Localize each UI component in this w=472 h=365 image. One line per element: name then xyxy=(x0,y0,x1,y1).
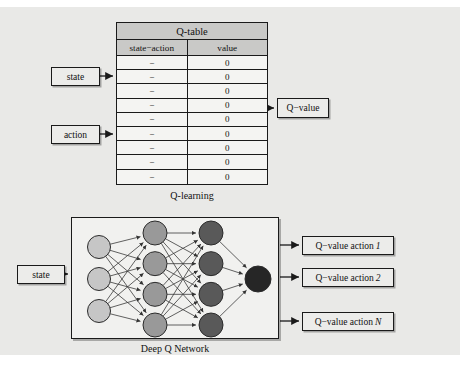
q-table-col-header-state-action: state−action xyxy=(117,40,188,55)
network-edge xyxy=(166,271,198,289)
dqn-caption: Deep Q Network xyxy=(71,343,279,354)
state-input-box-dqn[interactable]: state xyxy=(17,265,65,284)
q-table-header-row: state−action value xyxy=(117,40,267,56)
network-node-hidden-layer-2 xyxy=(199,313,223,337)
network-edge xyxy=(166,269,198,287)
network-node-input-layer xyxy=(88,300,111,323)
q-table-col-header-value: value xyxy=(188,40,268,55)
q-value-action-1-suffix: 1 xyxy=(374,241,381,251)
network-edge xyxy=(110,250,141,259)
network-node-input-layer xyxy=(88,236,111,259)
q-table-row: −0 xyxy=(117,70,267,84)
q-table-cell-value: 0 xyxy=(188,113,268,126)
q-value-action-n-suffix: N xyxy=(373,317,381,327)
network-node-hidden-layer-2 xyxy=(199,282,223,306)
state-input-box-qlearning[interactable]: state xyxy=(51,67,100,86)
q-table-row: −0 xyxy=(117,84,267,98)
q-table-cell-state-action: − xyxy=(117,113,188,126)
q-table: Q-table state−action value −0−0−0−0−0−0−… xyxy=(116,22,268,185)
network-nodes xyxy=(88,221,272,337)
q-table-cell-value: 0 xyxy=(188,84,268,97)
network-node-output-layer xyxy=(245,266,271,292)
network-edges xyxy=(106,233,247,325)
network-edge xyxy=(110,237,140,245)
q-table-row: −0 xyxy=(117,113,267,127)
network-edge xyxy=(110,299,141,308)
q-value-action-2-box[interactable]: Q−value action 2 xyxy=(302,268,394,287)
q-value-action-2-prefix: Q−value action xyxy=(315,273,373,283)
q-table-title-row: Q-table xyxy=(117,23,267,40)
q-table-cell-state-action: − xyxy=(117,70,188,83)
network-edge xyxy=(166,240,198,258)
diagram-canvas: Q-table state−action value −0−0−0−0−0−0−… xyxy=(0,7,460,355)
network-node-hidden-layer-1 xyxy=(143,221,167,245)
q-table-row: −0 xyxy=(117,141,267,155)
q-table-row: −0 xyxy=(117,127,267,141)
q-table-cell-value: 0 xyxy=(188,127,268,140)
q-table-row: −0 xyxy=(117,56,267,70)
network-node-hidden-layer-2 xyxy=(199,221,223,245)
q-table-cell-value: 0 xyxy=(188,99,268,112)
network-node-hidden-layer-1 xyxy=(143,313,167,337)
network-edge xyxy=(220,290,247,316)
q-table-cell-state-action: − xyxy=(117,127,188,140)
q-table-cell-value: 0 xyxy=(188,70,268,83)
q-table-row: −0 xyxy=(117,155,267,169)
q-table-title: Q-table xyxy=(176,26,208,37)
network-node-hidden-layer-2 xyxy=(199,252,223,276)
network-node-hidden-layer-1 xyxy=(143,252,167,276)
q-value-action-n-box[interactable]: Q−value action N xyxy=(302,312,394,331)
q-table-row: −0 xyxy=(117,99,267,113)
network-edge xyxy=(166,302,198,320)
q-value-action-n-prefix: Q−value action xyxy=(315,317,373,327)
q-table-cell-state-action: − xyxy=(117,141,188,154)
q-table-cell-value: 0 xyxy=(188,170,268,184)
q-value-action-2-suffix: 2 xyxy=(374,273,381,283)
deep-q-network-box xyxy=(71,217,279,339)
q-value-action-1-box[interactable]: Q−value action 1 xyxy=(302,236,394,255)
q-table-body: −0−0−0−0−0−0−0−0−0 xyxy=(117,56,267,184)
network-edge xyxy=(222,267,242,274)
q-table-cell-state-action: − xyxy=(117,99,188,112)
q-table-cell-state-action: − xyxy=(117,84,188,97)
q-table-cell-value: 0 xyxy=(188,155,268,168)
q-table-cell-state-action: − xyxy=(117,155,188,168)
network-edge xyxy=(106,256,147,312)
network-edge xyxy=(110,314,140,322)
q-table-row: −0 xyxy=(117,170,267,184)
q-value-output-box[interactable]: Q−value xyxy=(277,98,329,118)
neural-network-graph xyxy=(72,218,280,340)
network-node-hidden-layer-1 xyxy=(143,282,167,306)
q-table-cell-state-action: − xyxy=(117,56,188,69)
q-table-cell-value: 0 xyxy=(188,141,268,154)
network-edge xyxy=(166,239,198,257)
network-edge xyxy=(220,241,247,267)
network-edge xyxy=(222,284,242,291)
q-table-cell-state-action: − xyxy=(117,170,188,184)
q-value-action-1-prefix: Q−value action xyxy=(315,241,373,251)
qlearning-caption: Q-learning xyxy=(116,190,268,201)
network-node-input-layer xyxy=(88,268,111,291)
network-edge xyxy=(166,300,198,318)
network-edge xyxy=(106,245,147,301)
action-input-box-qlearning[interactable]: action xyxy=(51,125,100,144)
q-table-cell-value: 0 xyxy=(188,56,268,69)
